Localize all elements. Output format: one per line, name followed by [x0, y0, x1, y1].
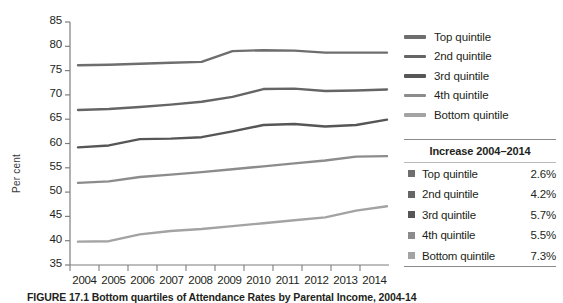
legend-label: 2nd quintile: [434, 50, 492, 62]
table-row: 3rd quintile5.7%: [404, 204, 556, 225]
legend-item[interactable]: Bottom quintile: [404, 105, 556, 125]
table-row: Bottom quintile7.3%: [404, 245, 556, 266]
table-row-label: Top quintile: [422, 168, 531, 180]
legend-label: Top quintile: [434, 31, 491, 43]
series-line: [78, 89, 387, 110]
table-row-label: 4th quintile: [422, 229, 531, 241]
y-tick-label: 65: [36, 111, 62, 123]
legend-item[interactable]: 2nd quintile: [404, 47, 556, 67]
table-row-value: 2.6%: [531, 168, 556, 180]
table-row-label: Bottom quintile: [422, 250, 531, 262]
table-row-swatch: [408, 232, 415, 239]
x-tick-label: 2014: [355, 274, 395, 286]
legend-swatch: [404, 35, 426, 39]
chart-legend: Top quintile2nd quintile3rd quintile4th …: [404, 27, 556, 125]
legend-label: 4th quintile: [434, 89, 488, 101]
table-row-swatch: [408, 252, 415, 259]
table-row: 2nd quintile4.2%: [404, 184, 556, 205]
table-row-swatch: [408, 211, 415, 218]
line-chart-plot: Per cent 8580757065605550454035200420052…: [0, 0, 392, 290]
y-tick-label: 40: [36, 233, 62, 245]
y-tick-label: 75: [36, 63, 62, 75]
table-row-value: 5.7%: [531, 209, 556, 221]
legend-label: Bottom quintile: [434, 109, 509, 121]
legend-swatch: [404, 94, 426, 98]
increase-table: Increase 2004–2014 Top quintile2.6%2nd q…: [404, 139, 556, 267]
series-line: [78, 50, 387, 65]
y-tick-label: 60: [36, 136, 62, 148]
table-row-swatch: [408, 191, 415, 198]
table-bottom-divider: [404, 266, 556, 267]
table-row-label: 2nd quintile: [422, 188, 531, 200]
y-tick-label: 50: [36, 184, 62, 196]
table-row-swatch: [408, 170, 415, 177]
series-line: [78, 120, 387, 148]
series-line: [78, 206, 387, 241]
table-title: Increase 2004–2014: [404, 140, 556, 162]
legend-item[interactable]: 3rd quintile: [404, 66, 556, 86]
figure-container: Per cent 8580757065605550454035200420052…: [0, 0, 563, 303]
legend-swatch: [404, 55, 426, 59]
table-row: Top quintile2.6%: [404, 163, 556, 184]
legend-swatch: [404, 113, 426, 117]
y-tick-label: 85: [36, 14, 62, 26]
y-tick-label: 55: [36, 160, 62, 172]
figure-caption: FIGURE 17.1 Bottom quartiles of Attendan…: [27, 291, 547, 303]
y-tick-label: 70: [36, 87, 62, 99]
table-row-value: 4.2%: [531, 188, 556, 200]
table-row-value: 5.5%: [531, 229, 556, 241]
y-tick-label: 45: [36, 208, 62, 220]
table-row-label: 3rd quintile: [422, 209, 531, 221]
table-row: 4th quintile5.5%: [404, 225, 556, 246]
table-body: Top quintile2.6%2nd quintile4.2%3rd quin…: [404, 163, 556, 266]
legend-item[interactable]: Top quintile: [404, 27, 556, 47]
legend-label: 3rd quintile: [434, 70, 489, 82]
y-tick-label: 80: [36, 38, 62, 50]
legend-item[interactable]: 4th quintile: [404, 86, 556, 106]
y-tick-label: 35: [36, 257, 62, 269]
legend-swatch: [404, 74, 426, 78]
table-row-value: 7.3%: [531, 250, 556, 262]
series-line: [78, 156, 387, 183]
